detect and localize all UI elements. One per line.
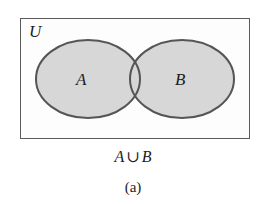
caption-right-set: B xyxy=(142,148,152,165)
union-operator-symbol: ∪ xyxy=(124,148,141,165)
caption-expression: A∪B xyxy=(0,149,266,165)
figure-label: (a) xyxy=(0,180,266,195)
caption-left-set: A xyxy=(115,148,125,165)
universe-label: U xyxy=(29,23,41,40)
set-label-b: B xyxy=(175,71,185,88)
venn-ellipses-stage xyxy=(20,18,250,139)
venn-diagram-figure: U A B A∪B (a) xyxy=(0,0,266,204)
set-label-a: A xyxy=(76,71,86,88)
union-shaded-region xyxy=(36,40,234,118)
